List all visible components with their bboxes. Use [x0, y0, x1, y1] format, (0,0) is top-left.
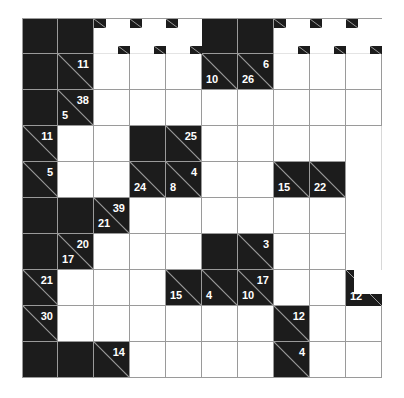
block-cell — [58, 18, 94, 54]
clue-cell: 12 — [274, 306, 310, 342]
entry-cell[interactable] — [274, 234, 310, 270]
down-clue: 22 — [314, 182, 326, 193]
block-cell — [238, 18, 274, 54]
block-cell — [22, 18, 58, 54]
clue-cell: 11 — [58, 54, 94, 90]
entry-cell[interactable] — [274, 270, 310, 306]
down-clue: 17 — [62, 254, 74, 265]
entry-cell[interactable] — [94, 90, 130, 126]
across-clue: 4 — [299, 347, 305, 358]
clue-cell: 25 — [166, 126, 202, 162]
empty-area — [346, 126, 382, 162]
across-clue: 20 — [77, 239, 89, 250]
transition-cell — [310, 18, 346, 54]
entry-cell[interactable] — [58, 270, 94, 306]
entry-cell[interactable] — [166, 234, 202, 270]
entry-cell[interactable] — [130, 90, 166, 126]
across-clue: 39 — [113, 203, 125, 214]
across-clue: 25 — [185, 131, 197, 142]
clue-cell: 4 — [202, 270, 238, 306]
down-clue: 10 — [206, 74, 218, 85]
clue-cell: 30 — [22, 306, 58, 342]
entry-cell[interactable] — [130, 342, 166, 378]
entry-cell[interactable] — [58, 162, 94, 198]
clue-cell: 2017 — [58, 234, 94, 270]
entry-cell[interactable] — [58, 306, 94, 342]
entry-cell[interactable] — [202, 342, 238, 378]
down-clue: 15 — [278, 182, 290, 193]
clue-cell: 3921 — [94, 198, 130, 234]
clue-cell: 4 — [274, 342, 310, 378]
clue-cell: 626 — [238, 54, 274, 90]
entry-cell[interactable] — [94, 54, 130, 90]
entry-cell[interactable] — [94, 162, 130, 198]
entry-cell[interactable] — [94, 234, 130, 270]
entry-cell[interactable] — [94, 270, 130, 306]
entry-cell[interactable] — [58, 126, 94, 162]
across-clue: 30 — [41, 311, 53, 322]
clue-cell: 22 — [310, 162, 346, 198]
entry-cell[interactable] — [202, 90, 238, 126]
entry-cell[interactable] — [130, 270, 166, 306]
down-clue: 4 — [206, 290, 212, 301]
entry-cell[interactable] — [310, 270, 346, 306]
entry-cell[interactable] — [130, 198, 166, 234]
entry-cell[interactable] — [166, 198, 202, 234]
clue-cell: 5 — [22, 162, 58, 198]
clue-fragment-icon — [130, 19, 142, 28]
block-cell — [202, 18, 238, 54]
entry-cell[interactable] — [238, 162, 274, 198]
across-clue: 14 — [113, 347, 125, 358]
clue-cell: 3 — [238, 234, 274, 270]
entry-cell[interactable] — [202, 198, 238, 234]
transition-cell — [94, 18, 130, 54]
down-clue: 21 — [98, 218, 110, 229]
entry-cell[interactable] — [274, 198, 310, 234]
entry-cell[interactable] — [346, 342, 382, 378]
entry-cell[interactable] — [346, 306, 382, 342]
entry-cell[interactable] — [130, 306, 166, 342]
entry-cell[interactable] — [238, 342, 274, 378]
entry-cell[interactable] — [346, 90, 382, 126]
entry-cell[interactable] — [202, 126, 238, 162]
across-clue: 3 — [263, 239, 269, 250]
entry-cell[interactable] — [274, 90, 310, 126]
entry-cell[interactable] — [238, 90, 274, 126]
transition-cell — [274, 18, 310, 54]
entry-cell[interactable] — [130, 54, 166, 90]
clue-cell: 15 — [166, 270, 202, 306]
clue-cell: 11 — [22, 126, 58, 162]
down-clue: 10 — [242, 290, 254, 301]
entry-cell[interactable] — [94, 126, 130, 162]
entry-cell[interactable] — [310, 198, 346, 234]
clue-cell: 15 — [274, 162, 310, 198]
entry-cell[interactable] — [238, 198, 274, 234]
entry-cell[interactable] — [310, 126, 346, 162]
entry-cell[interactable] — [346, 54, 382, 90]
entry-cell[interactable] — [274, 54, 310, 90]
entry-cell[interactable] — [94, 306, 130, 342]
across-clue: 17 — [257, 275, 269, 286]
entry-cell[interactable] — [166, 342, 202, 378]
down-clue: 5 — [62, 110, 68, 121]
entry-cell[interactable] — [310, 342, 346, 378]
entry-cell[interactable] — [310, 234, 346, 270]
block-cell — [58, 198, 94, 234]
down-clue: 24 — [134, 182, 146, 193]
entry-cell[interactable] — [238, 126, 274, 162]
clue-fragment-icon — [346, 19, 358, 28]
entry-cell[interactable] — [202, 162, 238, 198]
entry-cell[interactable] — [202, 306, 238, 342]
entry-cell[interactable] — [310, 306, 346, 342]
empty-area — [346, 198, 382, 234]
clue-cell: 14 — [94, 342, 130, 378]
clue-fragment-icon — [166, 19, 178, 28]
entry-cell[interactable] — [166, 90, 202, 126]
entry-cell[interactable] — [166, 306, 202, 342]
entry-cell[interactable] — [130, 234, 166, 270]
entry-cell[interactable] — [310, 54, 346, 90]
entry-cell[interactable] — [238, 306, 274, 342]
entry-cell[interactable] — [166, 54, 202, 90]
entry-cell[interactable] — [310, 90, 346, 126]
entry-cell[interactable] — [274, 126, 310, 162]
